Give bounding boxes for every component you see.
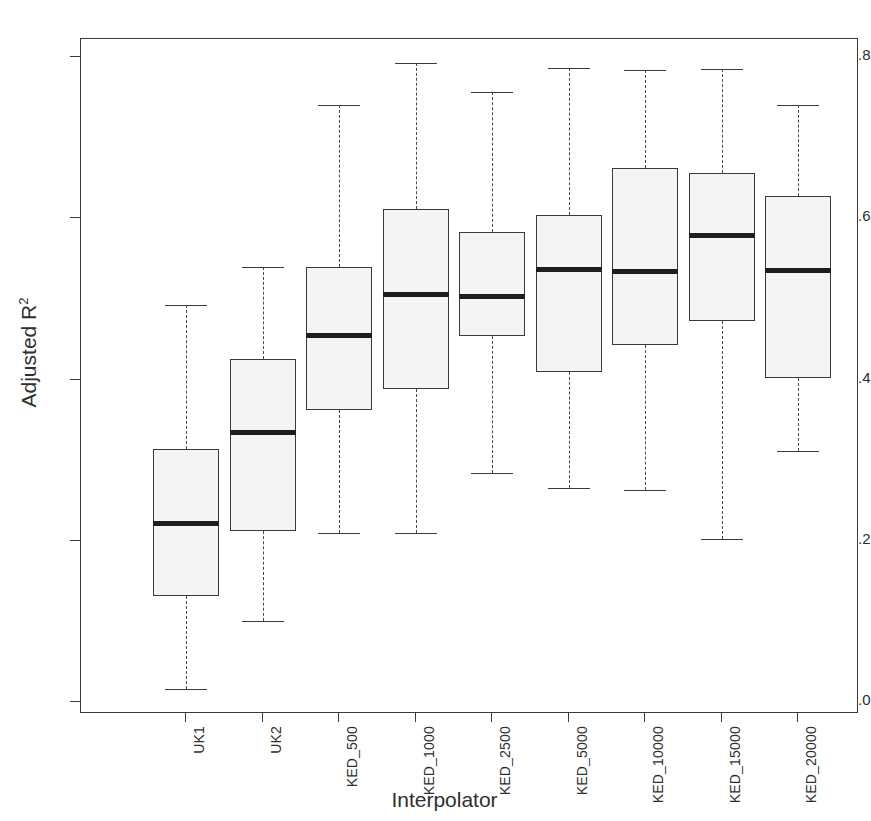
- box-median: [459, 294, 525, 299]
- x-axis-tick: [185, 713, 186, 722]
- whisker-cap-upper: [165, 305, 207, 306]
- box-iqr: [230, 359, 296, 531]
- whisker-lower: [645, 345, 646, 490]
- x-axis-tick: [338, 713, 339, 722]
- x-axis-tick: [721, 713, 722, 722]
- whisker-lower: [722, 321, 723, 539]
- box-iqr: [459, 232, 525, 336]
- y-axis-title: Adjusted R2: [16, 153, 41, 553]
- box-median: [153, 521, 219, 526]
- whisker-cap-upper: [777, 105, 819, 106]
- whisker-cap-upper: [318, 105, 360, 106]
- box-iqr: [612, 168, 678, 345]
- x-axis-title: Interpolator: [0, 788, 871, 812]
- whisker-cap-lower: [242, 621, 284, 622]
- y-axis-tick: [70, 540, 80, 541]
- whisker-cap-upper: [701, 69, 743, 70]
- x-axis-tick-label-ked_1000: KED_1000: [421, 726, 437, 795]
- x-axis-tick-label-ked_5000: KED_5000: [574, 726, 590, 795]
- box-median: [689, 233, 755, 238]
- x-axis-tick: [568, 713, 569, 722]
- x-axis-tick-label-uk2: UK2: [268, 726, 284, 754]
- whisker-lower: [569, 372, 570, 487]
- whisker-lower: [186, 596, 187, 689]
- whisker-upper: [569, 68, 570, 215]
- box-median: [536, 267, 602, 272]
- whisker-cap-upper: [624, 70, 666, 71]
- box-median: [306, 333, 372, 338]
- y-axis-tick: [70, 217, 80, 218]
- whisker-lower: [263, 531, 264, 620]
- y-axis-tick: [70, 701, 80, 702]
- whisker-upper: [492, 92, 493, 231]
- whisker-cap-lower: [777, 451, 819, 452]
- whisker-lower: [416, 389, 417, 533]
- whisker-cap-lower: [165, 689, 207, 690]
- box-iqr: [536, 215, 602, 372]
- whisker-cap-upper: [395, 63, 437, 64]
- x-axis-tick: [491, 713, 492, 722]
- boxplot-chart: Adjusted R2 0.00.20.40.60.8 UK1UK2KED_50…: [0, 0, 871, 821]
- whisker-upper: [798, 105, 799, 196]
- whisker-upper: [339, 105, 340, 266]
- x-axis-tick: [415, 713, 416, 722]
- box-iqr: [765, 196, 831, 377]
- x-axis-tick-label-ked_2500: KED_2500: [497, 726, 513, 795]
- whisker-lower: [492, 336, 493, 473]
- whisker-lower: [798, 378, 799, 451]
- y-axis-title-base: Adjusted R: [17, 305, 40, 408]
- whisker-cap-lower: [318, 533, 360, 534]
- whisker-cap-lower: [548, 488, 590, 489]
- whisker-cap-upper: [471, 92, 513, 93]
- whisker-upper: [645, 70, 646, 168]
- box-iqr: [383, 209, 449, 390]
- box-median: [612, 269, 678, 274]
- x-axis-tick-label-uk1: UK1: [191, 726, 207, 754]
- y-axis-tick: [70, 379, 80, 380]
- whisker-cap-lower: [471, 473, 513, 474]
- plot-area: [80, 38, 858, 713]
- whisker-cap-lower: [624, 490, 666, 491]
- whisker-upper: [722, 69, 723, 173]
- whisker-cap-upper: [548, 68, 590, 69]
- x-axis-tick: [644, 713, 645, 722]
- box-median: [765, 268, 831, 273]
- whisker-lower: [339, 410, 340, 533]
- box-iqr: [689, 173, 755, 321]
- whisker-upper: [186, 305, 187, 449]
- whisker-upper: [263, 267, 264, 359]
- y-axis-title-exponent: 2: [16, 298, 31, 305]
- x-axis-tick-label-ked_500: KED_500: [344, 726, 360, 787]
- whisker-cap-lower: [395, 533, 437, 534]
- whisker-cap-lower: [701, 539, 743, 540]
- whisker-upper: [416, 63, 417, 208]
- x-axis-tick: [262, 713, 263, 722]
- whisker-cap-upper: [242, 267, 284, 268]
- y-axis-tick: [70, 56, 80, 57]
- box-median: [230, 430, 296, 435]
- x-axis-tick: [797, 713, 798, 722]
- box-median: [383, 292, 449, 297]
